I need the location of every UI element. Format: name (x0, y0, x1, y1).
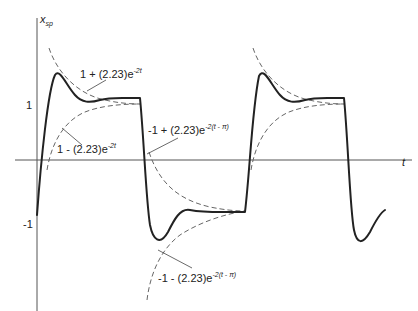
response-diagram: xsp t 1 -1 1 + (2.23)e-2t 1 - (2.23)e-2t… (0, 0, 418, 311)
lower-envelope-2 (147, 211, 245, 300)
annotation-lower-1: 1 - (2.23)e-2t (57, 142, 117, 155)
leader-upper-2 (147, 138, 178, 154)
leader-upper-1 (87, 80, 106, 91)
tick-label-1: 1 (26, 99, 32, 111)
annotation-upper-1: 1 + (2.23)e-2t (80, 67, 143, 80)
x-axis-label: t (402, 156, 406, 168)
leader-lower-2 (158, 250, 192, 268)
y-axis-label: xsp (39, 13, 53, 28)
upper-envelope-2 (149, 152, 245, 211)
annotation-lower-2: -1 - (2.23)e-2(t - π) (158, 271, 236, 284)
annotation-upper-2: -1 + (2.23)e-2(t - π) (148, 123, 229, 136)
response-curve (37, 73, 385, 241)
tick-label-minus-1: -1 (23, 218, 33, 230)
